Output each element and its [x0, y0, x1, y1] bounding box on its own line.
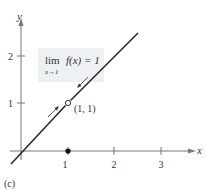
function-line-lower [11, 106, 66, 165]
open-circle-point [65, 100, 70, 105]
y-tick-label-2: 2 [8, 51, 13, 62]
y-tick-label-1: 1 [8, 98, 13, 109]
x-tick-label-3: 3 [159, 159, 164, 170]
panel-label: (c) [4, 178, 15, 190]
x-tick-label-2: 2 [112, 159, 117, 170]
x-axis-label: x [196, 144, 202, 156]
point-label: (1, 1) [74, 103, 96, 115]
x-axis-arrow-icon [188, 149, 196, 154]
limit-subscript-text: x→1 [44, 68, 59, 76]
filled-point [65, 148, 70, 153]
limit-lim-text: lim [45, 54, 60, 66]
x-tick-label-1: 1 [63, 159, 68, 170]
y-axis-label: y [16, 10, 22, 22]
limit-expression-text: f(x) = 1 [66, 54, 100, 67]
limit-graph: y x 1 2 3 1 2 lim x→1 f(x) = 1 (1, 1) (c… [0, 0, 206, 191]
